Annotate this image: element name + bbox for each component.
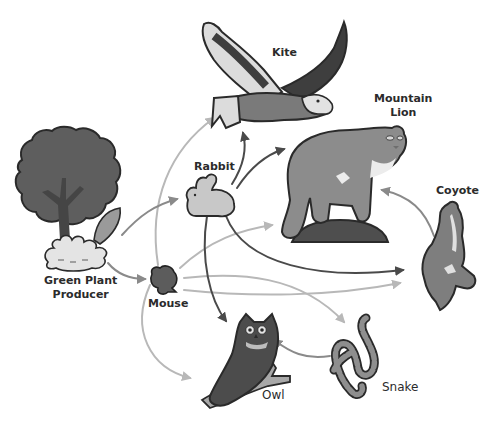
label-owl: Owl bbox=[262, 388, 285, 402]
rabbit-illustration bbox=[187, 175, 235, 217]
label-mouse: Mouse bbox=[148, 297, 188, 311]
label-rabbit: Rabbit bbox=[194, 160, 235, 174]
rock-base-icon bbox=[292, 220, 388, 242]
arrow-plant-to-rabbit bbox=[122, 199, 177, 235]
label-mountain-lion: Mountain Lion bbox=[374, 92, 432, 120]
label-coyote: Coyote bbox=[436, 184, 479, 198]
food-web-diagram bbox=[0, 0, 496, 427]
arrow-rabbit-to-owl bbox=[205, 216, 226, 321]
coyote-illustration bbox=[422, 202, 475, 310]
mouse-illustration bbox=[151, 266, 177, 294]
label-mountain-lion-line1: Mountain bbox=[374, 92, 432, 106]
label-green-plant-line2: Producer bbox=[44, 288, 117, 302]
arrow-rabbit-to-kite bbox=[232, 133, 245, 184]
kite-right-wing-icon bbox=[282, 22, 347, 100]
arrow-mouse-to-lion bbox=[180, 225, 272, 268]
label-snake: Snake bbox=[382, 380, 418, 394]
label-mountain-lion-line2: Lion bbox=[374, 106, 432, 120]
kite-illustration bbox=[203, 22, 347, 128]
arrow-snake-to-owl bbox=[274, 340, 330, 357]
arrow-mouse-to-coyote bbox=[184, 283, 400, 295]
rabbit-icon bbox=[187, 175, 235, 217]
coyote-icon bbox=[422, 202, 475, 310]
kite-tail-icon bbox=[212, 96, 240, 128]
arrow-coyote-to-lion bbox=[382, 190, 434, 236]
label-green-plant: Green Plant Producer bbox=[44, 274, 117, 302]
label-green-plant-line1: Green Plant bbox=[44, 274, 117, 288]
snake-illustration bbox=[334, 318, 374, 394]
green-plant-illustration bbox=[16, 127, 121, 271]
label-kite: Kite bbox=[272, 46, 297, 60]
mouse-icon bbox=[151, 266, 177, 294]
arrow-mouse-to-snake bbox=[184, 276, 344, 322]
mountain-lion-illustration bbox=[282, 126, 406, 242]
